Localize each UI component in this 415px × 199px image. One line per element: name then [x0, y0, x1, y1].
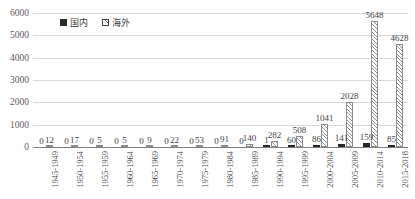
data-label-domestic: 0	[39, 136, 44, 146]
data-label-overseas: 508	[293, 125, 307, 135]
data-label-domestic: 0	[164, 136, 169, 146]
data-label-domestic: 0	[189, 136, 194, 146]
bar-overseas	[371, 21, 378, 147]
bar-overseas	[321, 124, 328, 147]
data-label-domestic: 0	[89, 136, 94, 146]
bar-group: 05	[83, 13, 108, 147]
bar-group: 09	[133, 13, 158, 147]
bar-group: 1282	[258, 13, 283, 147]
data-label-overseas: 140	[243, 133, 257, 143]
x-axis-tick-label: 1945-1949	[50, 151, 60, 188]
data-label-domestic: 0	[64, 136, 69, 146]
data-label-overseas: 4628	[390, 33, 408, 43]
x-axis-tick-label: 1980-1984	[225, 151, 235, 188]
bar-group: 60508	[283, 13, 308, 147]
bar-group: 091	[208, 13, 233, 147]
x-axis-tick-label: 1960-1964	[125, 151, 135, 188]
bar-group: 0140	[233, 13, 258, 147]
data-label-overseas: 53	[195, 135, 204, 145]
x-axis-tick-label: 1950-1954	[75, 151, 85, 188]
data-label-overseas: 9	[147, 135, 152, 145]
x-axis-tick-label: 2010-2014	[375, 151, 385, 188]
bar-group: 854628	[383, 13, 408, 147]
x-axis-tick-label: 2000-2004	[325, 151, 335, 188]
x-axis-tick-label: 1985-1989	[250, 151, 260, 188]
x-axis-tick-label: 1990-1994	[275, 151, 285, 188]
y-axis-tick-label: 6000	[10, 8, 29, 18]
bar-overseas	[396, 44, 403, 147]
bar-group: 861041	[308, 13, 333, 147]
bar-group: 1595648	[358, 13, 383, 147]
data-label-overseas: 282	[268, 130, 282, 140]
data-label-overseas: 17	[70, 135, 79, 145]
data-label-overseas: 91	[220, 134, 229, 144]
data-label-overseas: 12	[45, 135, 54, 145]
data-label-domestic: 60	[287, 135, 296, 145]
x-axis-tick-label: 2015-2018	[400, 151, 410, 188]
bar-groups: 0120170505090220530910140128260508861041…	[33, 13, 408, 147]
x-axis-labels: 1945-19491950-19541955-19591960-19641965…	[33, 147, 408, 199]
data-label-overseas: 5	[97, 135, 102, 145]
data-label-domestic: 141	[335, 133, 349, 143]
y-axis-tick-label: 2000	[10, 97, 29, 107]
data-label-overseas: 22	[170, 135, 179, 145]
data-label-domestic: 159	[360, 132, 374, 142]
y-axis-tick-label: 0	[24, 142, 29, 152]
x-axis-tick-label: 1995-1999	[300, 151, 310, 188]
y-axis-tick-label: 3000	[10, 75, 29, 85]
y-axis-tick-label: 4000	[10, 53, 29, 63]
x-axis-tick-label: 1970-1974	[175, 151, 185, 188]
x-axis-tick-label: 1965-1969	[150, 151, 160, 188]
data-label-overseas: 2028	[340, 91, 358, 101]
bar-group: 053	[183, 13, 208, 147]
bar-group: 1412028	[333, 13, 358, 147]
bar-group: 012	[33, 13, 58, 147]
y-axis-tick-label: 1000	[10, 120, 29, 130]
data-label-domestic: 0	[139, 136, 144, 146]
x-axis-tick-label: 1975-1979	[200, 151, 210, 188]
data-label-overseas: 5	[122, 135, 127, 145]
data-label-domestic: 0	[214, 136, 219, 146]
bar-overseas	[296, 136, 303, 147]
bar-group: 017	[58, 13, 83, 147]
data-label-domestic: 85	[387, 134, 396, 144]
bar-group: 05	[108, 13, 133, 147]
data-label-domestic: 0	[114, 136, 119, 146]
y-axis-tick-label: 5000	[10, 30, 29, 40]
data-label-overseas: 1041	[315, 113, 333, 123]
bar-chart: 0100020003000400050006000 国内 海外 01201705…	[0, 0, 415, 199]
y-axis-labels: 0100020003000400050006000	[0, 0, 33, 199]
bar-group: 022	[158, 13, 183, 147]
data-label-overseas: 5648	[365, 10, 383, 20]
x-axis-tick-label: 1955-1959	[100, 151, 110, 188]
data-label-domestic: 86	[312, 134, 321, 144]
x-axis-tick-label: 2005-2009	[350, 151, 360, 188]
